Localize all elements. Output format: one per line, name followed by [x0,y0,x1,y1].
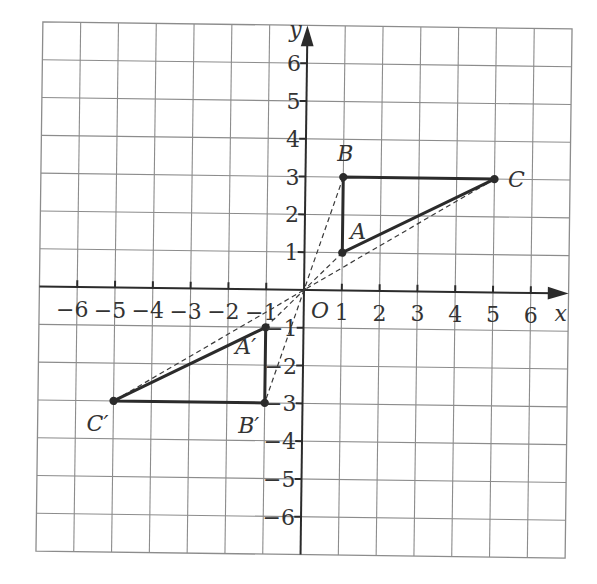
x-axis [39,287,557,294]
x-tick-label: 6 [524,303,538,328]
y-axis-label: y [288,17,302,42]
x-tick-label: −4 [132,298,164,323]
vertex-label-a: A [348,219,366,244]
y-tick-label: 2 [285,202,299,227]
y-tick-label: −2 [265,354,297,379]
vertex-label-b: B [336,141,353,166]
x-tick-label: −2 [207,299,239,324]
coordinate-diagram: −6−5−4−3−2−1123456654321−1−2−3−4−5−6xyOA… [0,0,597,584]
y-tick-label: 6 [287,51,301,76]
x-tick-label: 5 [486,302,500,327]
vertex-label-c: C [508,167,525,192]
origin-label: O [311,298,329,323]
x-tick-label: −3 [169,299,201,324]
coordinate-plane [36,22,572,558]
y-tick-label: −1 [265,316,297,341]
y-tick-label: −3 [264,391,296,416]
x-tick-label: −6 [56,297,88,322]
vertex-label-a-prime: A′ [233,334,256,359]
y-tick-label: −6 [263,505,295,530]
y-tick-label: 3 [285,165,299,190]
y-tick-label: −5 [263,467,295,492]
x-tick-label: 2 [373,301,387,326]
y-tick-label: 4 [286,127,300,152]
y-tick-label: 1 [284,240,298,265]
x-tick-label: 3 [410,301,424,326]
x-tick-label: 1 [335,300,349,325]
y-axis-arrow-icon [301,25,314,46]
y-axis [301,37,308,555]
vertex-point [339,173,347,181]
vertex-label-c-prime: C′ [87,411,109,436]
x-tick-label: −5 [94,298,126,323]
x-axis-label: x [555,301,568,326]
y-tick-label: −4 [264,429,296,454]
x-tick-label: 4 [448,302,462,327]
x-axis-arrow-icon [548,287,569,300]
y-tick-label: 5 [286,89,300,114]
dashed-rays [114,174,495,406]
vertex-label-b-prime: B′ [237,413,259,438]
